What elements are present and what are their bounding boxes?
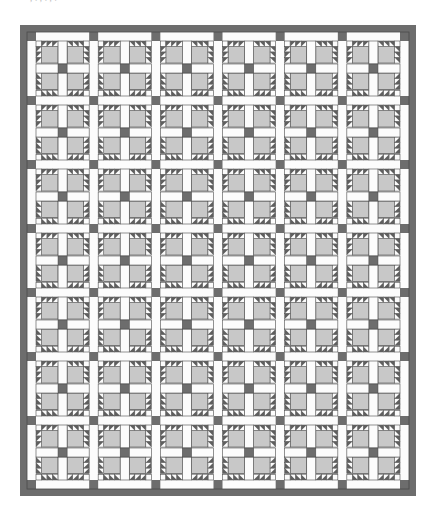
paw-center-square bbox=[129, 175, 146, 192]
paw-center-square bbox=[42, 457, 59, 474]
bear-paw-block bbox=[285, 425, 338, 480]
paw-center-square bbox=[129, 329, 146, 346]
paw-center-square bbox=[129, 393, 146, 410]
paw-center-square bbox=[191, 265, 208, 282]
paw-center-square bbox=[42, 303, 59, 320]
paw-corner-square bbox=[332, 410, 338, 416]
sashing-cornerstone bbox=[89, 96, 98, 105]
paw-corner-square bbox=[98, 474, 104, 480]
paw-center-square bbox=[228, 239, 245, 256]
paw-center-square bbox=[316, 457, 333, 474]
paw-corner-square bbox=[270, 282, 276, 288]
bear-paw-block bbox=[36, 41, 89, 96]
paw-center-square bbox=[290, 111, 307, 128]
paw-corner-square bbox=[208, 425, 214, 431]
sashing-cornerstone bbox=[400, 160, 409, 169]
bear-paw-block bbox=[347, 105, 400, 160]
paw-center-square bbox=[316, 201, 333, 218]
paw-corner-square bbox=[36, 361, 42, 367]
paw-corner-square bbox=[394, 90, 400, 96]
paw-center-square bbox=[290, 303, 307, 320]
paw-center-square bbox=[129, 265, 146, 282]
paw-corner-square bbox=[285, 297, 291, 303]
paw-corner-square bbox=[270, 169, 276, 175]
block-center-square bbox=[58, 128, 67, 137]
paw-corner-square bbox=[332, 105, 338, 111]
paw-corner-square bbox=[84, 410, 90, 416]
paw-center-square bbox=[67, 431, 84, 448]
bear-paw-block bbox=[223, 105, 276, 160]
paw-corner-square bbox=[208, 218, 214, 224]
paw-center-square bbox=[254, 137, 271, 154]
paw-corner-square bbox=[208, 154, 214, 160]
paw-center-square bbox=[67, 175, 84, 192]
paw-corner-square bbox=[84, 218, 90, 224]
paw-center-square bbox=[352, 201, 369, 218]
paw-center-square bbox=[129, 303, 146, 320]
paw-corner-square bbox=[223, 105, 229, 111]
paw-center-square bbox=[316, 265, 333, 282]
paw-center-square bbox=[129, 457, 146, 474]
bear-paw-block bbox=[285, 233, 338, 288]
sashing-cornerstone bbox=[89, 416, 98, 425]
paw-corner-square bbox=[332, 218, 338, 224]
paw-center-square bbox=[290, 265, 307, 282]
block-center-square bbox=[307, 128, 316, 137]
paw-center-square bbox=[352, 137, 369, 154]
sashing-cornerstone bbox=[151, 160, 160, 169]
paw-center-square bbox=[228, 393, 245, 410]
paw-corner-square bbox=[98, 154, 104, 160]
sashing-cornerstone bbox=[338, 224, 347, 233]
paw-center-square bbox=[254, 329, 271, 346]
paw-corner-square bbox=[208, 233, 214, 239]
paw-center-square bbox=[316, 393, 333, 410]
paw-corner-square bbox=[160, 361, 166, 367]
paw-corner-square bbox=[146, 425, 152, 431]
bear-paw-block bbox=[223, 425, 276, 480]
sashing-cornerstone bbox=[400, 352, 409, 361]
sashing-cornerstone bbox=[27, 160, 36, 169]
paw-corner-square bbox=[98, 297, 104, 303]
paw-center-square bbox=[228, 303, 245, 320]
paw-center-square bbox=[254, 111, 271, 128]
paw-center-square bbox=[228, 431, 245, 448]
bear-paw-block bbox=[36, 169, 89, 224]
block-center-square bbox=[182, 64, 191, 73]
paw-corner-square bbox=[36, 233, 42, 239]
sashing-cornerstone bbox=[276, 224, 285, 233]
paw-corner-square bbox=[146, 90, 152, 96]
paw-corner-square bbox=[270, 233, 276, 239]
bear-paw-block bbox=[160, 361, 213, 416]
paw-center-square bbox=[352, 393, 369, 410]
sashing-cornerstone bbox=[276, 160, 285, 169]
paw-center-square bbox=[378, 201, 395, 218]
paw-corner-square bbox=[84, 361, 90, 367]
sashing-cornerstone bbox=[338, 416, 347, 425]
paw-corner-square bbox=[208, 297, 214, 303]
paw-corner-square bbox=[160, 346, 166, 352]
paw-center-square bbox=[104, 265, 121, 282]
paw-center-square bbox=[378, 137, 395, 154]
paw-corner-square bbox=[208, 410, 214, 416]
sashing-cornerstone bbox=[400, 32, 409, 41]
paw-corner-square bbox=[347, 361, 353, 367]
paw-center-square bbox=[254, 393, 271, 410]
bear-paw-block bbox=[223, 169, 276, 224]
paw-corner-square bbox=[332, 233, 338, 239]
paw-corner-square bbox=[84, 346, 90, 352]
sashing-cornerstone bbox=[89, 160, 98, 169]
block-center-square bbox=[307, 448, 316, 457]
paw-corner-square bbox=[146, 297, 152, 303]
paw-center-square bbox=[228, 111, 245, 128]
sashing-cornerstone bbox=[27, 288, 36, 297]
sashing-cornerstone bbox=[151, 288, 160, 297]
paw-corner-square bbox=[285, 105, 291, 111]
paw-corner-square bbox=[160, 41, 166, 47]
block-center-square bbox=[120, 64, 129, 73]
paw-corner-square bbox=[98, 282, 104, 288]
bear-paw-block bbox=[285, 297, 338, 352]
paw-center-square bbox=[42, 265, 59, 282]
paw-center-square bbox=[254, 303, 271, 320]
paw-center-square bbox=[42, 137, 59, 154]
sashing-cornerstone bbox=[89, 224, 98, 233]
